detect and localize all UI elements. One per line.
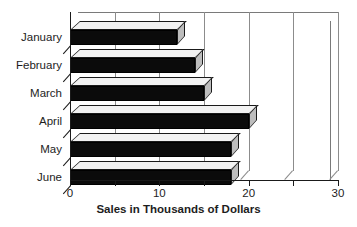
x-tick-label-0: 0 bbox=[50, 187, 90, 199]
gridline-25 bbox=[293, 12, 294, 171]
bar-front-face bbox=[70, 30, 177, 45]
x-tick-30 bbox=[338, 180, 339, 186]
bar-chart: JanuaryFebruaryMarchAprilMayJune 0102030… bbox=[0, 0, 357, 227]
x-tick-label-10: 10 bbox=[139, 187, 179, 199]
category-label-may: May bbox=[40, 143, 62, 155]
bar-january[interactable] bbox=[70, 21, 185, 45]
bar-march[interactable] bbox=[70, 77, 212, 101]
x-tick-label-20: 20 bbox=[229, 187, 269, 199]
x-tick-10 bbox=[159, 180, 160, 186]
category-label-june: June bbox=[37, 171, 62, 183]
x-tick-15 bbox=[204, 180, 205, 186]
bar-top-face bbox=[70, 77, 214, 86]
bar-front-face bbox=[70, 170, 231, 185]
plot-front-right-edge bbox=[330, 21, 331, 180]
bar-top-face bbox=[70, 161, 241, 170]
category-label-february: February bbox=[16, 59, 62, 71]
x-axis-title: Sales in Thousands of Dollars bbox=[0, 203, 357, 215]
gridline-depth-20 bbox=[240, 170, 249, 180]
gridline-depth-25 bbox=[285, 170, 294, 180]
category-label-january: January bbox=[21, 31, 62, 43]
bar-top-face bbox=[70, 21, 187, 30]
bar-top-face bbox=[70, 133, 241, 142]
bar-front-face bbox=[70, 114, 249, 129]
x-tick-label-30: 30 bbox=[318, 187, 357, 199]
bar-front-face bbox=[70, 58, 195, 73]
x-tick-20 bbox=[249, 180, 250, 186]
category-label-march: March bbox=[30, 87, 62, 99]
x-tick-5 bbox=[115, 180, 116, 186]
bar-april[interactable] bbox=[70, 105, 257, 129]
category-axis-labels: JanuaryFebruaryMarchAprilMayJune bbox=[0, 0, 66, 180]
category-label-april: April bbox=[39, 115, 62, 127]
bar-may[interactable] bbox=[70, 133, 239, 157]
gridline-20 bbox=[249, 12, 250, 171]
bar-front-face bbox=[70, 142, 231, 157]
x-tick-25 bbox=[293, 180, 294, 186]
y-axis-line bbox=[70, 12, 71, 180]
bar-top-face bbox=[70, 49, 205, 58]
plot-back-wall-top bbox=[78, 12, 338, 13]
bar-front-face bbox=[70, 86, 204, 101]
plot-area bbox=[70, 12, 338, 180]
bar-february[interactable] bbox=[70, 49, 203, 73]
bar-top-face bbox=[70, 105, 259, 114]
gridline-30 bbox=[338, 12, 339, 171]
